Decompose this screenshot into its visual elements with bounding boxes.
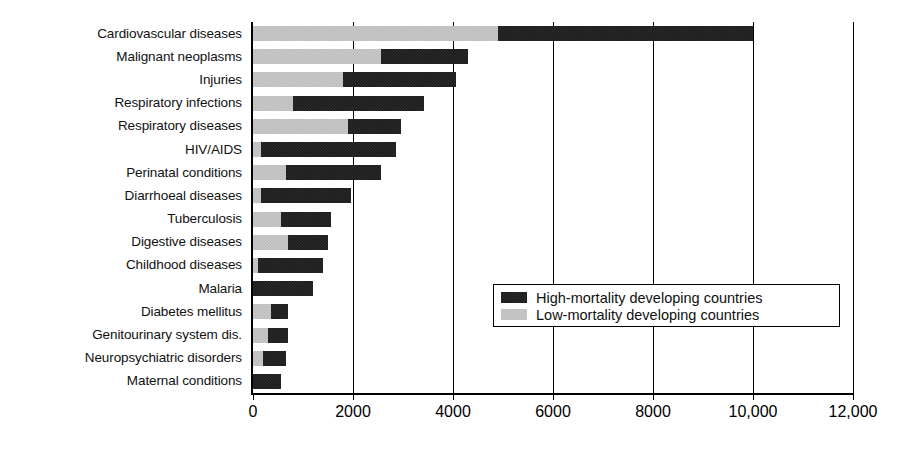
bar-segment-low-mortality xyxy=(253,165,286,180)
bar-row xyxy=(253,258,853,273)
legend-item-high-mortality: High-mortality developing countries xyxy=(501,289,839,306)
bar-segment-high-mortality xyxy=(253,374,281,389)
category-label: Childhood diseases xyxy=(126,258,242,272)
bar-segment-low-mortality xyxy=(253,235,288,250)
bar-segment-low-mortality xyxy=(253,351,263,366)
bar-segment-low-mortality xyxy=(253,142,261,157)
bar-row xyxy=(253,49,853,64)
category-label: Genitourinary system dis. xyxy=(92,328,242,342)
bar-row xyxy=(253,165,853,180)
bar-segment-high-mortality xyxy=(286,165,381,180)
bar-segment-high-mortality xyxy=(253,281,313,296)
gridline xyxy=(853,22,854,393)
bar-segment-low-mortality xyxy=(253,212,281,227)
bar-segment-low-mortality xyxy=(253,119,348,134)
bar-chart: Cardiovascular diseasesMalignant neoplas… xyxy=(0,0,902,449)
x-tick-mark xyxy=(253,393,254,400)
category-label: Respiratory diseases xyxy=(118,119,242,133)
bar-segment-high-mortality xyxy=(288,235,328,250)
legend-label-high-mortality: High-mortality developing countries xyxy=(536,290,762,306)
category-label: HIV/AIDS xyxy=(185,143,242,157)
bar-row xyxy=(253,351,853,366)
chart-legend: High-mortality developing countries Low-… xyxy=(493,284,840,327)
x-axis-line xyxy=(251,393,853,395)
bar-row xyxy=(253,72,853,87)
high-mortality-swatch xyxy=(501,292,527,303)
category-label: Digestive diseases xyxy=(131,235,242,249)
x-tick-label: 4000 xyxy=(435,403,471,421)
category-label: Perinatal conditions xyxy=(126,166,242,180)
x-tick-mark xyxy=(453,393,454,400)
x-tick-mark xyxy=(553,393,554,400)
bar-row xyxy=(253,26,853,41)
low-mortality-swatch xyxy=(501,309,527,320)
bar-segment-high-mortality xyxy=(498,26,753,41)
bar-segment-high-mortality xyxy=(258,258,323,273)
bar-segment-low-mortality xyxy=(253,304,271,319)
bar-row xyxy=(253,212,853,227)
category-label: Tuberculosis xyxy=(167,212,242,226)
bar-row xyxy=(253,119,853,134)
legend-item-low-mortality: Low-mortality developing countries xyxy=(501,306,839,323)
x-tick-label: 2000 xyxy=(335,403,371,421)
category-label: Cardiovascular diseases xyxy=(97,27,242,41)
x-tick-mark xyxy=(653,393,654,400)
bar-segment-low-mortality xyxy=(253,188,261,203)
bar-row xyxy=(253,328,853,343)
bar-segment-low-mortality xyxy=(253,72,343,87)
x-tick-label: 8000 xyxy=(635,403,671,421)
x-tick-mark xyxy=(753,393,754,400)
bar-segment-low-mortality xyxy=(253,328,268,343)
category-label: Maternal conditions xyxy=(127,374,242,388)
bar-row xyxy=(253,374,853,389)
x-tick-label: 12,000 xyxy=(829,403,878,421)
bar-segment-high-mortality xyxy=(293,96,424,111)
category-label: Malignant neoplasms xyxy=(116,50,242,64)
bar-row xyxy=(253,188,853,203)
plot-area: 0200040006000800010,00012,000 xyxy=(253,22,853,393)
x-tick-label: 0 xyxy=(249,403,258,421)
bar-row xyxy=(253,142,853,157)
category-label: Neuropsychiatric disorders xyxy=(85,351,242,365)
category-label: Respiratory infections xyxy=(114,96,242,110)
bar-row xyxy=(253,96,853,111)
bar-segment-high-mortality xyxy=(343,72,456,87)
x-tick-mark xyxy=(353,393,354,400)
bar-segment-high-mortality xyxy=(261,142,396,157)
bar-segment-low-mortality xyxy=(253,96,293,111)
category-label: Diabetes mellitus xyxy=(141,305,242,319)
x-tick-label: 6000 xyxy=(535,403,571,421)
bar-segment-high-mortality xyxy=(381,49,469,64)
category-label: Injuries xyxy=(199,73,242,87)
x-tick-label: 10,000 xyxy=(729,403,778,421)
bar-segment-high-mortality xyxy=(268,328,288,343)
category-label: Malaria xyxy=(198,282,242,296)
legend-label-low-mortality: Low-mortality developing countries xyxy=(536,307,759,323)
bar-row xyxy=(253,235,853,250)
bar-segment-high-mortality xyxy=(263,351,286,366)
bar-segment-high-mortality xyxy=(348,119,401,134)
bar-segment-low-mortality xyxy=(253,26,498,41)
bar-segment-high-mortality xyxy=(281,212,332,227)
x-tick-mark xyxy=(853,393,854,400)
bar-segment-high-mortality xyxy=(271,304,289,319)
bar-segment-low-mortality xyxy=(253,49,381,64)
category-label: Diarrhoeal diseases xyxy=(125,189,242,203)
bar-segment-high-mortality xyxy=(261,188,351,203)
